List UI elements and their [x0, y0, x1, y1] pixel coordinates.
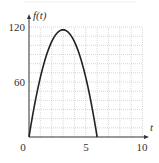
y-tick-60: 60 — [14, 76, 26, 88]
y-axis-arrow-icon — [27, 14, 31, 19]
x-axis-label: t — [150, 121, 154, 133]
x-axis-arrow-icon — [144, 135, 149, 139]
y-tick-120: 120 — [9, 21, 26, 33]
line-chart: f(t) t 120 60 0 5 10 — [0, 0, 159, 163]
grid — [29, 27, 143, 137]
y-axis-label: f(t) — [33, 9, 47, 22]
x-tick-5: 5 — [83, 141, 89, 153]
axes — [27, 14, 149, 139]
x-tick-0: 0 — [20, 141, 26, 153]
x-tick-10: 10 — [137, 141, 149, 153]
